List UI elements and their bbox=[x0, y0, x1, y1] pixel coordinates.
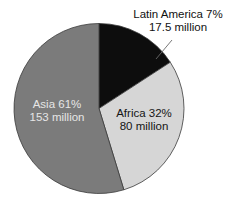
label-latin-america-value: 17.5 million bbox=[133, 21, 223, 34]
label-africa: Africa 32% 80 million bbox=[116, 107, 172, 133]
label-latin-america-percent: Latin America 7% bbox=[133, 8, 223, 21]
label-africa-value: 80 million bbox=[116, 120, 172, 133]
label-africa-percent: Africa 32% bbox=[116, 107, 172, 120]
label-asia: Asia 61% 153 million bbox=[30, 98, 85, 124]
label-latin-america: Latin America 7% 17.5 million bbox=[133, 8, 223, 34]
label-asia-value: 153 million bbox=[30, 111, 85, 124]
label-asia-percent: Asia 61% bbox=[30, 98, 85, 111]
